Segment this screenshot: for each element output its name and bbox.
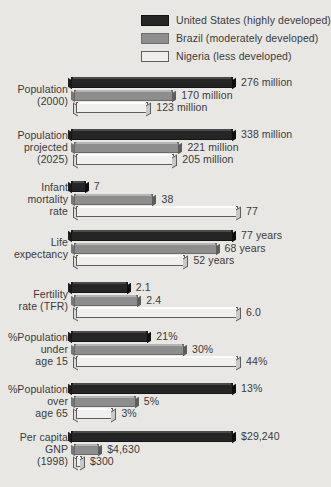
bar-value-label: 205 million: [182, 153, 233, 166]
bar-row: 21%: [71, 331, 208, 342]
bar-value-label: 30%: [192, 343, 213, 356]
bar-value-label: 21%: [156, 330, 177, 343]
bar-value-label: 52 years: [193, 254, 234, 267]
bar-ng: [76, 408, 113, 419]
chart-group: Population(2000)276 million170 million12…: [0, 77, 331, 119]
bar-br: [74, 344, 184, 355]
bar-row: $4,630: [74, 444, 160, 455]
bar-value-label: $29,240: [241, 430, 280, 443]
bar-ng: [76, 456, 82, 467]
bar-value-label: 6.0: [246, 306, 261, 319]
bar-value-label: 5%: [144, 395, 159, 408]
bar-row: 5%: [74, 396, 196, 407]
legend-item-united-states: United States (highly developed): [141, 12, 331, 28]
bar-ng: [76, 154, 174, 165]
group-bars: 77 years68 years52 years: [0, 230, 331, 272]
bar-row: 52 years: [76, 255, 245, 266]
bar-row: 6.0: [76, 307, 298, 318]
bar-value-label: 276 million: [241, 76, 292, 89]
chart-group: %Populationunderage 1521%30%44%: [0, 331, 331, 373]
bar-value-label: 44%: [246, 355, 267, 368]
bar-ng: [76, 255, 185, 266]
bar-row: 205 million: [76, 154, 234, 165]
population-comparison-chart: United States (highly developed) Brazil …: [0, 0, 331, 487]
bar-us: [71, 129, 233, 140]
bar-us: [71, 282, 128, 293]
bar-us: [71, 230, 233, 241]
bar-br: [74, 444, 100, 455]
bar-value-label: 123 million: [156, 101, 207, 114]
bar-br: [74, 295, 139, 306]
group-bars: 2.12.46.0: [0, 282, 331, 324]
chart-group: Populationprojected(2025)338 million221 …: [0, 129, 331, 171]
bar-br: [74, 142, 180, 153]
bar-us: [71, 181, 86, 192]
bar-row: 338 million: [71, 129, 293, 140]
group-bars: 338 million221 million205 million: [0, 129, 331, 171]
bar-row: 123 million: [76, 102, 208, 113]
bar-row: 30%: [74, 344, 244, 355]
bar-ng: [76, 206, 238, 217]
bar-value-label: 77 years: [241, 229, 282, 242]
bar-value-label: 2.4: [146, 294, 161, 307]
bar-value-label: $4,630: [107, 443, 140, 456]
legend-item-brazil: Brazil (moderately developed): [141, 30, 331, 46]
bar-us: [71, 383, 233, 394]
group-bars: 21%30%44%: [0, 331, 331, 373]
legend-item-nigeria: Nigeria (less developed): [141, 48, 331, 64]
bar-br: [74, 194, 154, 205]
bar-value-label: 338 million: [241, 128, 292, 141]
bar-row: $29,240: [71, 431, 293, 442]
bar-row: 68 years: [74, 243, 277, 254]
bar-us: [71, 331, 148, 342]
bar-br: [74, 90, 174, 101]
bar-row: 38: [74, 194, 214, 205]
legend-swatch-united-states: [141, 15, 169, 26]
chart-group: %Populationoverage 6513%5%3%: [0, 383, 331, 425]
bar-br: [74, 396, 136, 407]
bar-row: 2.4: [74, 295, 199, 306]
bar-value-label: 3%: [121, 407, 136, 420]
bar-value-label: $300: [90, 455, 114, 468]
legend-swatch-nigeria: [141, 51, 169, 62]
bar-value-label: 68 years: [225, 242, 266, 255]
legend-label-nigeria: Nigeria (less developed): [176, 50, 292, 62]
bar-us: [71, 77, 233, 88]
bar-ng: [76, 102, 148, 113]
bar-row: 13%: [71, 383, 293, 394]
bar-row: 221 million: [74, 142, 240, 153]
bar-row: 77 years: [71, 230, 293, 241]
chart-group: Fertilityrate (TFR)2.12.46.0: [0, 282, 331, 324]
chart-group: Lifeexpectancy77 years68 years52 years: [0, 230, 331, 272]
bar-row: 77: [76, 206, 298, 217]
chart-group: Infantmortalityrate73877: [0, 181, 331, 223]
chart-group: Per capitaGNP(1998)$29,240$4,630$300: [0, 431, 331, 473]
bar-row: 44%: [76, 356, 298, 367]
bar-value-label: 13%: [241, 382, 262, 395]
bar-row: 2.1: [71, 282, 188, 293]
bar-ng: [76, 307, 238, 318]
bar-row: $300: [76, 456, 142, 467]
legend-label-brazil: Brazil (moderately developed): [176, 32, 318, 44]
legend-label-united-states: United States (highly developed): [176, 14, 331, 26]
group-bars: 276 million170 million123 million: [0, 77, 331, 119]
bar-us: [71, 431, 233, 442]
bar-row: 7: [71, 181, 146, 192]
bar-value-label: 221 million: [187, 141, 238, 154]
bar-value-label: 7: [94, 180, 100, 193]
legend-swatch-brazil: [141, 33, 169, 44]
group-bars: $29,240$4,630$300: [0, 431, 331, 473]
bar-value-label: 77: [246, 205, 258, 218]
bar-row: 276 million: [71, 77, 293, 88]
bar-br: [74, 243, 217, 254]
bar-ng: [76, 356, 238, 367]
bar-value-label: 2.1: [136, 281, 151, 294]
bar-row: 3%: [76, 408, 173, 419]
group-bars: 73877: [0, 181, 331, 223]
bar-value-label: 170 million: [181, 89, 232, 102]
chart-legend: United States (highly developed) Brazil …: [141, 12, 331, 66]
group-bars: 13%5%3%: [0, 383, 331, 425]
bar-row: 170 million: [74, 90, 234, 101]
bar-value-label: 38: [161, 193, 173, 206]
